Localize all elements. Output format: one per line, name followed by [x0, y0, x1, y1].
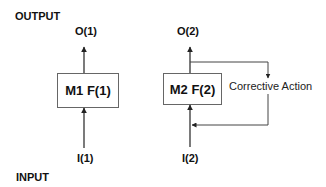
model2-output-label: O(2) — [177, 26, 199, 37]
model2-input-label: I(2) — [182, 153, 199, 164]
output-heading: OUTPUT — [15, 11, 60, 22]
model1-output-label: O(1) — [75, 26, 97, 37]
model1-input-label: I(1) — [77, 153, 94, 164]
input-heading: INPUT — [16, 172, 49, 183]
model2-box-label: M2 F(2) — [164, 74, 221, 104]
diagram-canvas — [0, 0, 326, 187]
model1-box-label: M1 F(1) — [58, 74, 118, 107]
corrective-action-label: Corrective Action — [229, 81, 312, 92]
